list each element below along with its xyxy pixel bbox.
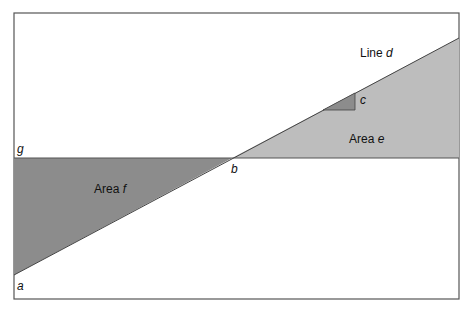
area-f-var: f — [123, 182, 126, 196]
point-a-label: a — [17, 280, 24, 292]
point-g-label: g — [17, 143, 24, 155]
area-f-prefix: Area — [94, 182, 119, 196]
area-e-label: Area e — [349, 133, 384, 145]
line-d-prefix: Line — [360, 46, 383, 60]
line-d-label: Line d — [360, 47, 393, 59]
diagram-canvas — [0, 0, 471, 316]
point-c-label: c — [360, 94, 366, 106]
line-d-var: d — [386, 46, 393, 60]
point-b-label: b — [231, 163, 238, 175]
area-e-var: e — [378, 132, 385, 146]
area-e-prefix: Area — [349, 132, 374, 146]
area-f-label: Area f — [94, 183, 126, 195]
